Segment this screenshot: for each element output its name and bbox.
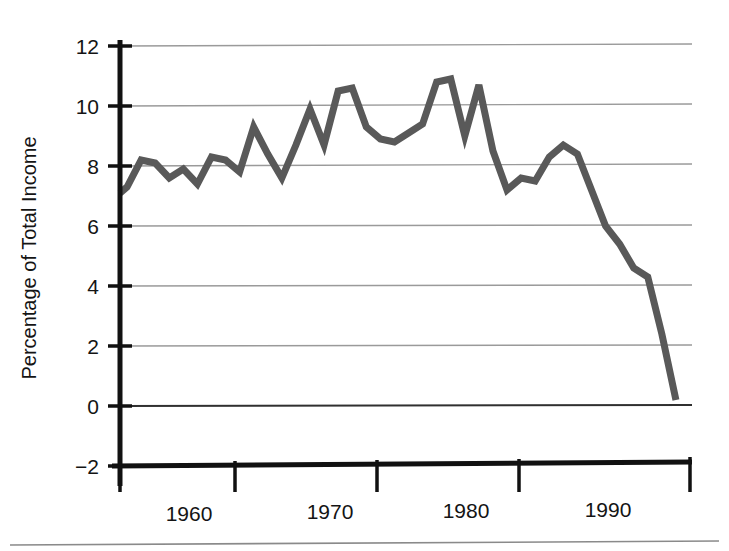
y-tick-label-0: 0 xyxy=(87,395,99,418)
chart-background xyxy=(0,0,729,551)
gridline-0 xyxy=(120,405,692,406)
x-tick-label-1980: 1980 xyxy=(443,499,490,522)
y-tick-label-2: 2 xyxy=(87,335,99,358)
line-chart: 12 10 8 6 4 2 0 −2 1960 1970 1980 1990 P… xyxy=(0,0,729,551)
y-tick-label-4: 4 xyxy=(87,275,99,298)
x-tick-label-1990: 1990 xyxy=(585,498,632,521)
x-tick-label-1960: 1960 xyxy=(166,502,213,525)
y-tick-label-minus2: −2 xyxy=(75,455,99,478)
y-tick-label-12: 12 xyxy=(76,35,99,58)
gridline-4 xyxy=(120,285,692,286)
y-axis-title: Percentage of Total Income xyxy=(18,136,40,379)
y-tick-label-6: 6 xyxy=(87,215,99,238)
gridline-2 xyxy=(120,345,692,346)
chart-figure: 12 10 8 6 4 2 0 −2 1960 1970 1980 1990 P… xyxy=(0,0,729,551)
y-tick-label-8: 8 xyxy=(87,155,99,178)
y-tick-label-10: 10 xyxy=(76,95,99,118)
x-tick-label-1970: 1970 xyxy=(307,500,354,523)
